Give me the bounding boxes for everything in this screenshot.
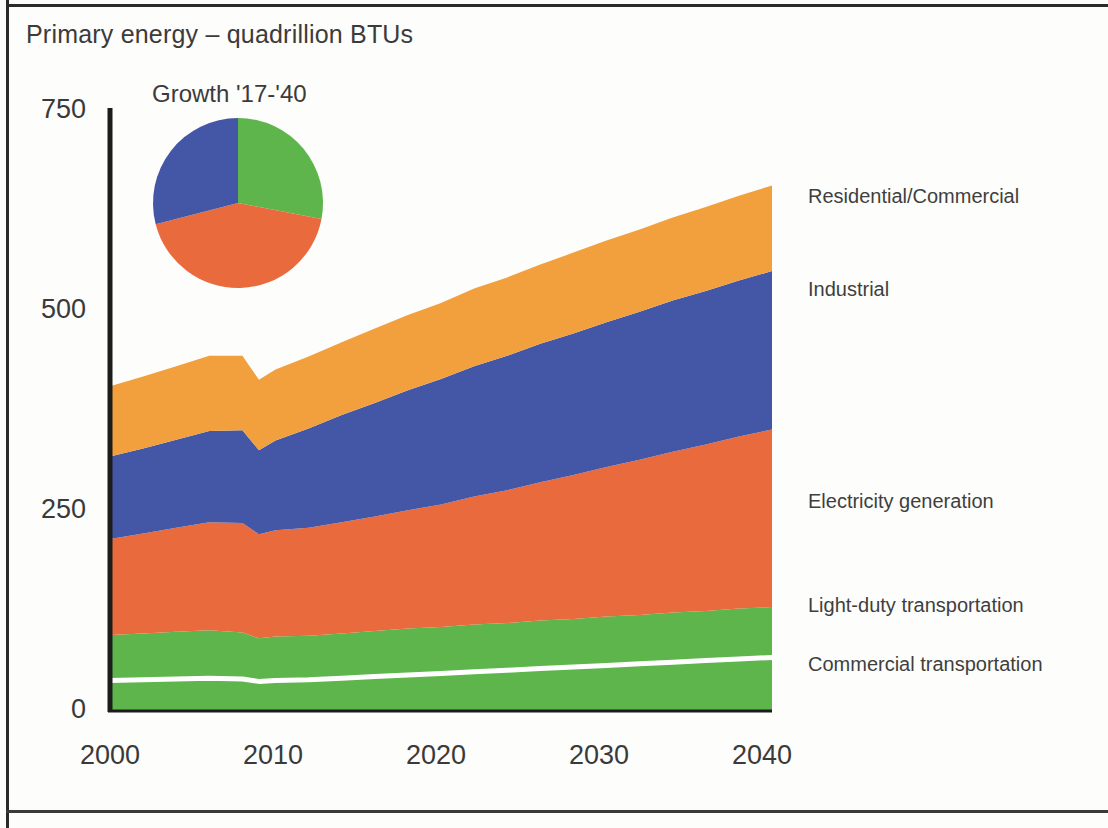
pie-slice-transportation (238, 118, 323, 219)
plot-canvas (0, 0, 1108, 828)
growth-pie-chart (153, 118, 323, 288)
chart-figure: Primary energy – quadrillion BTUs Growth… (0, 0, 1108, 828)
